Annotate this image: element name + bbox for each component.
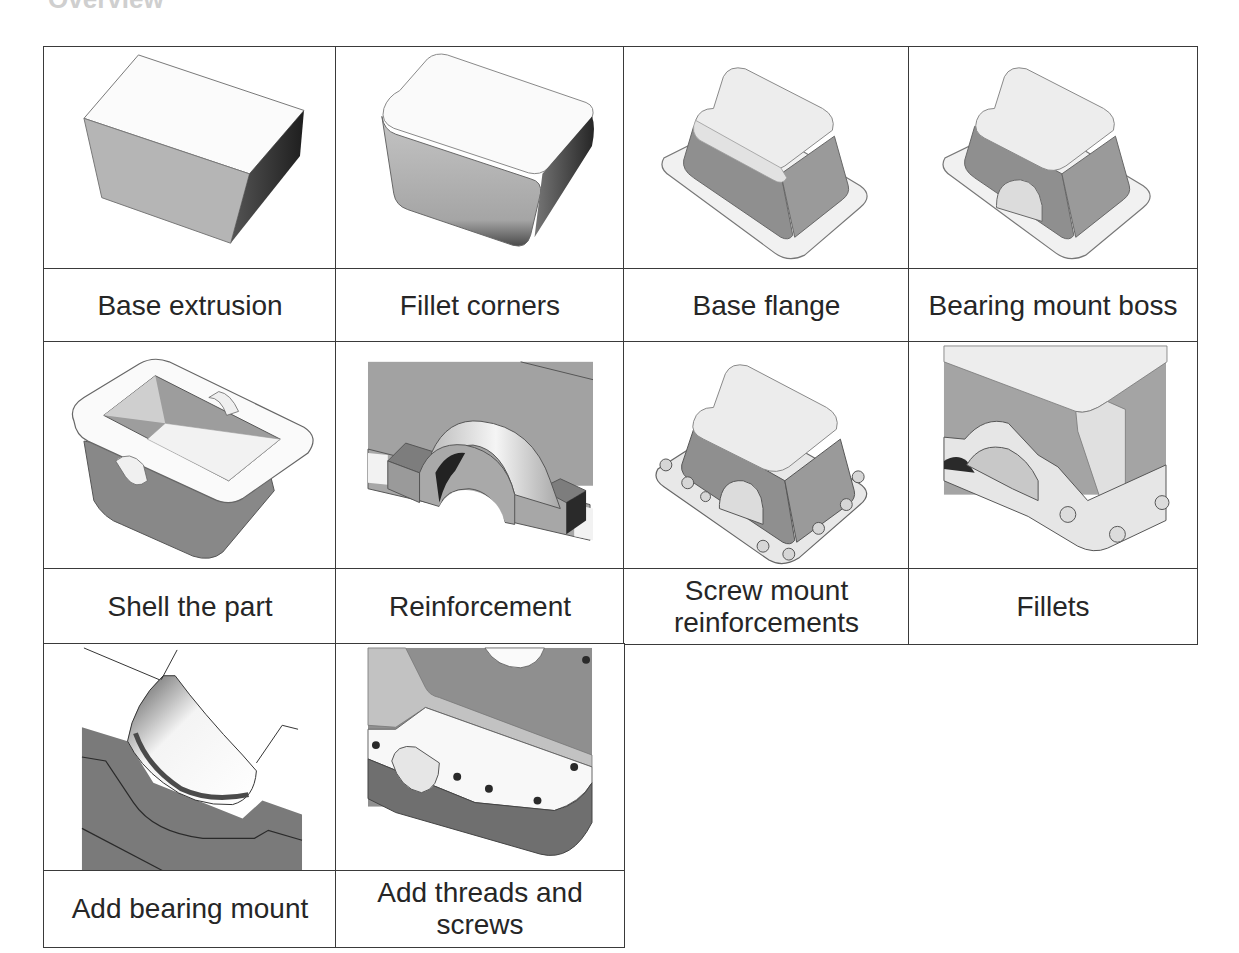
page-heading: Overview xyxy=(48,0,164,15)
step-image-fillet-corners xyxy=(335,46,625,270)
step-image-base-flange xyxy=(623,46,910,270)
step-label-reinforcement: Reinforcement xyxy=(335,568,625,645)
shell-part-model-icon xyxy=(44,342,336,569)
bearing-mount-boss-model-icon xyxy=(909,47,1197,269)
bearing-mount-model-icon xyxy=(44,644,336,871)
step-image-shell-the-part xyxy=(43,341,337,570)
step-label-bearing-mount-boss: Bearing mount boss xyxy=(908,268,1198,343)
step-image-fillets xyxy=(908,341,1198,570)
step-label-shell-the-part: Shell the part xyxy=(43,568,337,645)
step-image-reinforcement xyxy=(335,341,625,570)
fillet-corners-model-icon xyxy=(336,47,624,269)
step-label-add-bearing-mount: Add bearing mount xyxy=(43,870,337,948)
step-label-base-extrusion: Base extrusion xyxy=(43,268,337,343)
step-image-add-threads-and-screws xyxy=(335,643,625,872)
step-image-base-extrusion xyxy=(43,46,337,270)
base-flange-model-icon xyxy=(624,47,909,269)
fillets-model-icon xyxy=(909,342,1197,569)
reinforcement-model-icon xyxy=(336,342,624,569)
step-image-screw-mount-reinforcements xyxy=(623,341,910,570)
step-label-fillets: Fillets xyxy=(908,568,1198,645)
step-image-add-bearing-mount xyxy=(43,643,337,872)
step-label-fillet-corners: Fillet corners xyxy=(335,268,625,343)
step-label-screw-mount-reinforcements: Screw mount reinforcements xyxy=(623,568,910,645)
step-label-base-flange: Base flange xyxy=(623,268,910,343)
base-extrusion-model-icon xyxy=(44,47,336,269)
threads-screws-model-icon xyxy=(336,644,624,871)
screw-mount-reinforcements-model-icon xyxy=(624,342,909,569)
step-image-bearing-mount-boss xyxy=(908,46,1198,270)
step-label-add-threads-and-screws: Add threads and screws xyxy=(335,870,625,948)
